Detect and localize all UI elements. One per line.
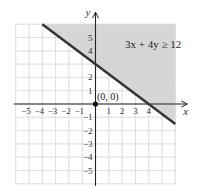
y-tick-label: −1 <box>83 112 93 122</box>
inequality-graph: −5−4−3−2−11234−5−4−3−2−11245 (0, 0) 3x +… <box>0 0 197 189</box>
x-tick-label: 3 <box>133 106 138 116</box>
y-tick-label: −5 <box>83 166 93 176</box>
x-axis-label: x <box>182 105 188 117</box>
x-tick-label: −3 <box>48 106 58 116</box>
y-tick-label: 5 <box>88 33 93 43</box>
x-tick-label: 2 <box>120 106 125 116</box>
test-point-label: (0, 0) <box>97 91 119 103</box>
x-tick-label: 1 <box>107 106 112 116</box>
y-tick-label: −4 <box>83 152 93 162</box>
x-tick-label: −5 <box>21 106 31 116</box>
x-tick-label: 4 <box>146 106 151 116</box>
y-tick-label: 2 <box>88 72 93 82</box>
x-tick-label: −2 <box>61 106 71 116</box>
y-tick-label: −2 <box>83 126 93 136</box>
y-tick-label: 4 <box>88 46 93 56</box>
y-tick-label: 1 <box>88 86 93 96</box>
y-tick-label: −3 <box>83 139 93 149</box>
inequality-label: 3x + 4y ≥ 12 <box>125 38 181 50</box>
y-axis-label: y <box>85 6 91 18</box>
origin-point <box>93 101 98 106</box>
x-tick-label: −4 <box>35 106 45 116</box>
